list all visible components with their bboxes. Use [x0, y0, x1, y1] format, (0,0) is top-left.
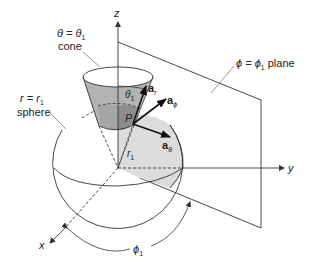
a-phi-label: aϕ — [167, 94, 177, 109]
point-p-label: P — [125, 112, 133, 124]
z-axis-label: z — [113, 7, 120, 19]
y-axis-label: y — [287, 162, 295, 174]
phi-arc — [67, 202, 190, 251]
a-r-label: ar — [148, 82, 157, 96]
plane-label: ϕ = ϕ1 plane — [236, 57, 295, 71]
cone-label: θ = θ1 — [57, 27, 85, 41]
sphere-label: r = r1 — [20, 92, 44, 106]
phi1-label: ϕ1 — [133, 243, 143, 257]
sphere-word: sphere — [17, 106, 51, 118]
spherical-coordinates-diagram: z y x θ = θ1 cone r = r1 sphere ϕ = ϕ1 p… — [0, 0, 309, 263]
cone-word: cone — [58, 40, 82, 52]
x-axis-label: x — [38, 239, 45, 251]
